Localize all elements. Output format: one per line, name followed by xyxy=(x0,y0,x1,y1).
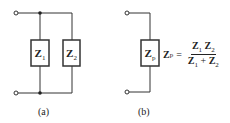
caption-b: (b) xyxy=(138,106,150,117)
impedance-z1-label: Z1 xyxy=(31,47,49,62)
caption-a: (a) xyxy=(38,106,49,117)
terminal-b-top xyxy=(125,11,129,15)
parallel-impedance-equation: Zp = Z1 Z2 Z1 + Z2 xyxy=(163,40,219,69)
junction-dot-top xyxy=(38,11,42,15)
terminal-b-bottom xyxy=(125,90,129,94)
terminal-a-bottom xyxy=(14,91,18,95)
impedance-zp-label: Zp xyxy=(141,47,159,62)
junction-dot-bottom xyxy=(38,91,42,95)
terminal-a-top xyxy=(14,11,18,15)
impedance-z2-label: Z2 xyxy=(63,47,80,62)
